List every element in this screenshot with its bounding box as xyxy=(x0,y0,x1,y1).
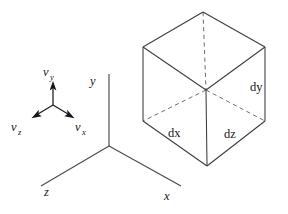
axis-label-z: z xyxy=(43,185,49,199)
figure-canvas: y x z v y v x v z xyxy=(0,0,288,214)
vector-label-vy-subscript: y xyxy=(49,72,54,82)
vector-label-vz: v z xyxy=(11,120,22,137)
cube-hidden-edges-group xyxy=(143,12,265,121)
vector-vx-shaft xyxy=(53,105,68,114)
vector-label-vz-subscript: z xyxy=(17,127,22,137)
cube-hidden-edge-right xyxy=(206,90,265,121)
cube-dimension-label-dy: dy xyxy=(250,80,263,94)
cube-edge-front-vertical xyxy=(206,90,207,166)
velocity-vector-triad-group xyxy=(32,81,75,118)
axis-z-line xyxy=(41,146,109,186)
vector-label-vx-base: v xyxy=(75,120,81,134)
cube-edge-upperleft-center xyxy=(143,47,206,90)
cube-edge-top-upperright xyxy=(203,12,265,47)
vector-label-vz-base: v xyxy=(11,120,17,134)
vector-vx-arrowhead-icon xyxy=(64,110,74,118)
axis-label-y: y xyxy=(88,74,96,88)
vector-label-vy: v y xyxy=(43,65,54,82)
axis-label-x: x xyxy=(163,189,170,203)
cube-hidden-edge-vertical xyxy=(203,12,206,90)
coordinate-axes-group xyxy=(41,74,181,186)
figure-container: y x z v y v x v z xyxy=(0,0,288,214)
cube-dimension-label-dx: dx xyxy=(168,126,181,140)
cube-hidden-edge-left xyxy=(143,90,206,121)
cube-dimension-label-dz: dz xyxy=(224,127,236,141)
axis-x-line xyxy=(109,146,181,186)
vector-label-vx-subscript: x xyxy=(81,127,86,137)
vector-vz-shaft xyxy=(38,105,53,114)
vector-label-vy-base: v xyxy=(43,65,49,79)
cube-edge-top-upperleft xyxy=(143,12,203,47)
cube-edge-bottom-right xyxy=(207,121,265,166)
vector-label-vx: v x xyxy=(75,120,86,137)
vector-vz-arrowhead-icon xyxy=(32,110,42,118)
